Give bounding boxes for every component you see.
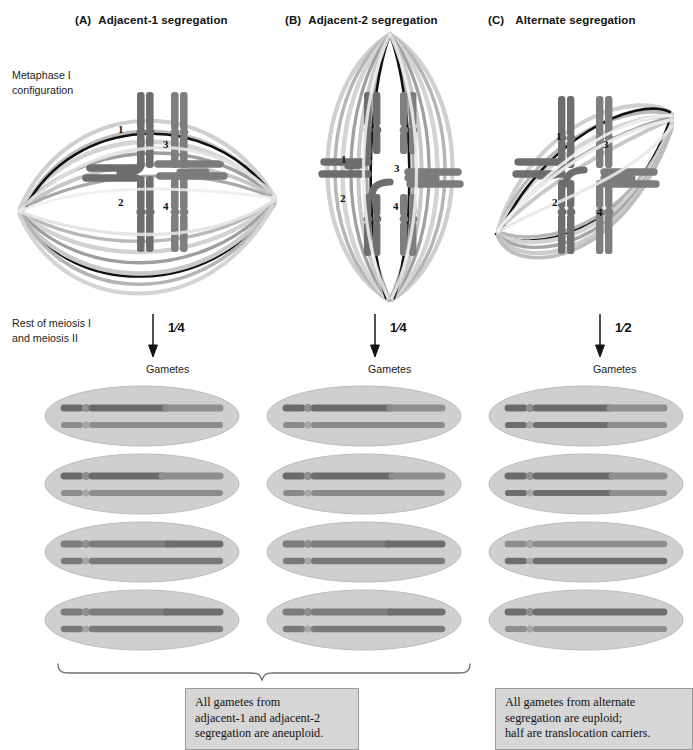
chromosome-number-a-1: 1: [118, 123, 124, 135]
chromosome-number-b-4: 4: [393, 200, 399, 212]
chromosome-number-a-2: 2: [118, 196, 124, 208]
panel-letter-c: (C): [488, 14, 504, 26]
chromosome-number-a-3: 3: [163, 138, 169, 150]
panel-title-a: Adjacent-1 segregation: [98, 14, 227, 26]
meiosis-arrow-c: [587, 312, 613, 362]
fraction-b-den: 4: [399, 320, 406, 335]
chromosome-number-c-4: 4: [597, 206, 603, 218]
chromosome-number-b-2: 2: [340, 192, 346, 204]
panel-header-b: (B)Adjacent-2 segregation: [285, 14, 438, 26]
panel-letter-a: (A): [75, 14, 91, 26]
caption-box-aneuploid: All gametes from adjacent-1 and adjacent…: [185, 688, 359, 750]
metaphase-figure-c: [482, 62, 687, 274]
fraction-c: 1⁄2: [615, 320, 632, 335]
gametes-label-c: Gametes: [593, 363, 636, 375]
gamete-a-3: [44, 521, 240, 583]
gametes-label-a: Gametes: [146, 363, 189, 375]
gamete-a-1: [44, 385, 240, 447]
meiosis-arrow-a: [140, 312, 166, 362]
gamete-a-2: [44, 453, 240, 515]
panel-letter-b: (B): [285, 14, 301, 26]
caption-box-euploid: All gametes from alternate segregation a…: [495, 688, 693, 750]
fraction-b: 1⁄4: [390, 320, 407, 335]
gametes-label-b: Gametes: [368, 363, 411, 375]
panel-title-c: Alternate segregation: [515, 14, 635, 26]
chromosome-number-b-3: 3: [394, 162, 400, 174]
gamete-b-4: [266, 589, 462, 651]
chromosome-number-c-1: 1: [556, 130, 562, 142]
gamete-b-2: [266, 453, 462, 515]
gamete-c-4: [488, 589, 684, 651]
gamete-c-3: [488, 521, 684, 583]
meiosis-arrow-b: [362, 312, 388, 362]
fraction-c-den: 2: [624, 320, 631, 335]
panel-title-b: Adjacent-2 segregation: [308, 14, 437, 26]
chromosome-number-b-1: 1: [341, 153, 347, 165]
gamete-c-1: [488, 385, 684, 447]
chromosome-number-c-3: 3: [603, 138, 609, 150]
gamete-b-3: [266, 521, 462, 583]
chromosome-number-a-4: 4: [163, 200, 169, 212]
panel-header-c: (C)Alternate segregation: [488, 14, 636, 26]
fraction-a-den: 4: [177, 320, 184, 335]
gamete-a-4: [44, 589, 240, 651]
grouping-brace: [55, 660, 473, 686]
meiosis-label: Rest of meiosis I and meiosis II: [12, 316, 91, 345]
gamete-b-1: [266, 385, 462, 447]
panel-header-a: (A)Adjacent-1 segregation: [75, 14, 228, 26]
gamete-c-2: [488, 453, 684, 515]
metaphase-figure-b: [290, 26, 490, 308]
chromosome-number-c-2: 2: [552, 196, 558, 208]
fraction-a: 1⁄4: [168, 320, 185, 335]
metaphase-figure-a: [8, 60, 288, 275]
